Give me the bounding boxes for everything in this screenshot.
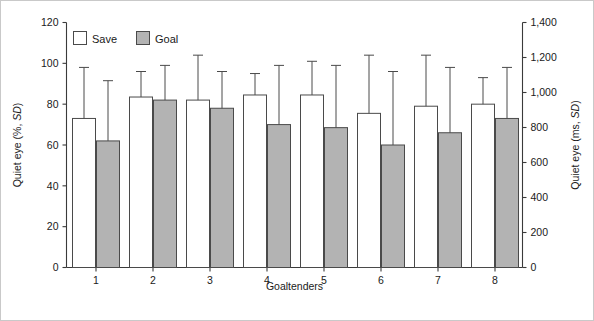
bar-goal[interactable] xyxy=(325,128,348,268)
bar-goal[interactable] xyxy=(268,125,291,268)
x-tick-label: 3 xyxy=(207,274,213,286)
bar-goal[interactable] xyxy=(382,145,405,268)
legend-label-save: Save xyxy=(92,33,117,45)
bar-save[interactable] xyxy=(73,118,96,267)
bar-save[interactable] xyxy=(415,106,438,267)
right-tick-label: 200 xyxy=(531,226,549,238)
x-tick-label: 7 xyxy=(435,274,441,286)
left-tick-label: 60 xyxy=(47,139,59,151)
left-tick-label: 20 xyxy=(47,220,59,232)
left-axis-ticks: 020406080100120 xyxy=(41,16,67,273)
left-tick-label: 100 xyxy=(41,57,59,69)
right-tick-label: 1,000 xyxy=(531,86,557,98)
bar-save[interactable] xyxy=(130,97,153,267)
x-tick-label: 8 xyxy=(492,274,498,286)
legend-label-goal: Goal xyxy=(155,33,178,45)
bar-save[interactable] xyxy=(187,100,210,267)
right-tick-label: 800 xyxy=(531,121,549,133)
y-axis-title: Quiet eye (%, SD) xyxy=(11,103,23,188)
y2-axis-title: Quiet eye (ms, SD) xyxy=(569,100,581,189)
right-axis-ticks: 02004006008001,0001,2001,400 xyxy=(523,16,557,273)
left-tick-label: 0 xyxy=(53,261,59,273)
bar-save[interactable] xyxy=(301,95,324,268)
bar-save[interactable] xyxy=(472,104,495,267)
bar-goal[interactable] xyxy=(211,108,234,267)
left-tick-label: 120 xyxy=(41,16,59,28)
right-tick-label: 1,200 xyxy=(531,51,557,63)
bar-save[interactable] xyxy=(244,95,267,268)
left-tick-label: 80 xyxy=(47,98,59,110)
x-axis-title: Goaltenders xyxy=(266,280,323,292)
bars-layer xyxy=(73,55,519,267)
right-tick-label: 0 xyxy=(531,261,537,273)
bar-goal[interactable] xyxy=(97,141,120,268)
x-tick-label: 1 xyxy=(93,274,99,286)
bar-save[interactable] xyxy=(358,113,381,267)
legend-swatch-save xyxy=(74,32,87,45)
left-tick-label: 40 xyxy=(47,180,59,192)
right-tick-label: 600 xyxy=(531,156,549,168)
x-tick-label: 6 xyxy=(378,274,384,286)
legend-swatch-goal xyxy=(137,32,150,45)
figure-container: 020406080100120 02004006008001,0001,2001… xyxy=(0,0,594,321)
bar-chart: 020406080100120 02004006008001,0001,2001… xyxy=(1,1,594,321)
legend: Save Goal xyxy=(74,32,179,45)
bar-goal[interactable] xyxy=(439,133,462,268)
right-tick-label: 400 xyxy=(531,191,549,203)
bar-goal[interactable] xyxy=(496,118,519,267)
bar-goal[interactable] xyxy=(154,100,177,267)
x-tick-label: 2 xyxy=(150,274,156,286)
right-tick-label: 1,400 xyxy=(531,16,557,28)
